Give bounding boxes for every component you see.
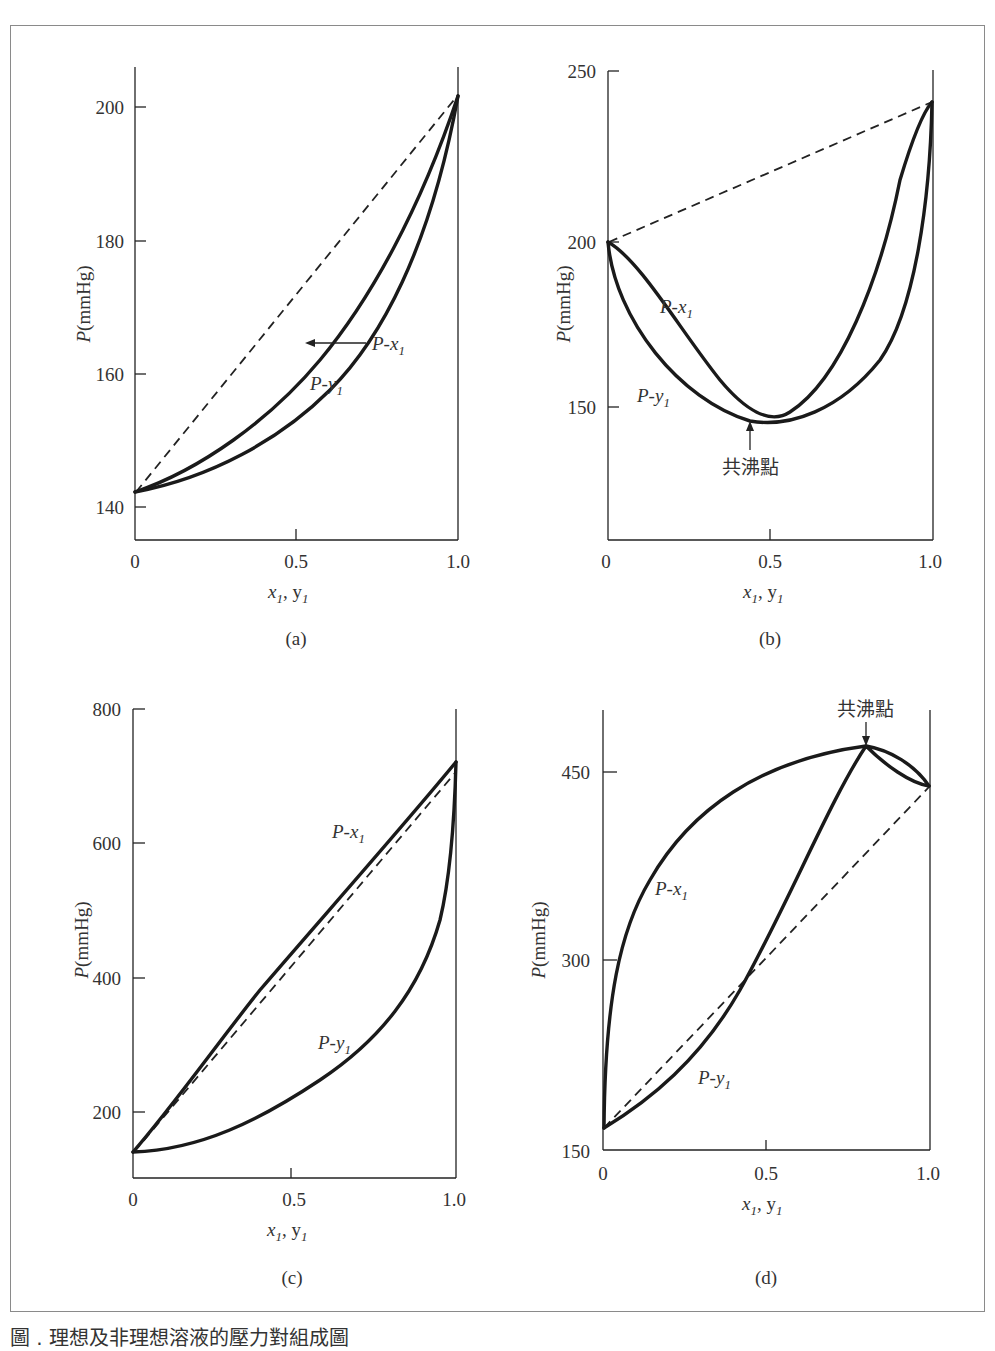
y-axis-label: P(mmHg) bbox=[553, 265, 575, 343]
x-tick: 1.0 bbox=[442, 1189, 466, 1210]
py-curve bbox=[608, 102, 932, 422]
x-axis-label: x1, y1 bbox=[742, 581, 783, 606]
px-label: P-x1 bbox=[331, 821, 365, 846]
x-tick: 0.5 bbox=[284, 551, 308, 572]
panel-c: 800 600 400 200 0 0.5 1.0 x1, y1 P(mmHg)… bbox=[71, 699, 466, 1289]
x-axis-label: x1, y1 bbox=[741, 1193, 782, 1218]
y-tick: 200 bbox=[568, 232, 597, 253]
x-axis-label: x1, y1 bbox=[267, 581, 308, 606]
y-axis-label: P(mmHg) bbox=[528, 901, 550, 979]
py-label: P-y1 bbox=[697, 1067, 731, 1092]
x-tick: 1.0 bbox=[916, 1163, 940, 1184]
panel-label: (d) bbox=[755, 1267, 777, 1289]
x-tick: 1.0 bbox=[918, 551, 942, 572]
px-curve bbox=[608, 102, 932, 417]
y-tick: 200 bbox=[96, 97, 125, 118]
azeotrope-label: 共沸點 bbox=[722, 456, 779, 478]
x-tick: 0.5 bbox=[282, 1189, 306, 1210]
raoult-line bbox=[609, 102, 932, 242]
raoult-line bbox=[604, 787, 929, 1128]
y-tick: 180 bbox=[96, 231, 125, 252]
x-axis-label: x1, y1 bbox=[266, 1219, 307, 1244]
y-tick: 300 bbox=[562, 950, 591, 971]
y-axis-label: P(mmHg) bbox=[71, 901, 93, 979]
panel-a: 200 180 160 140 0 0.5 1.0 x1, y1 P(mmHg)… bbox=[73, 67, 470, 650]
y-axis-label: P(mmHg) bbox=[73, 265, 95, 343]
x-tick: 1.0 bbox=[446, 551, 470, 572]
y-tick: 250 bbox=[568, 61, 597, 82]
raoult-line bbox=[136, 95, 458, 492]
y-tick: 160 bbox=[96, 364, 125, 385]
azeotrope-label: 共沸點 bbox=[837, 698, 894, 720]
py-label: P-y1 bbox=[317, 1032, 351, 1057]
panel-b: 250 200 150 0 0.5 1.0 x1, y1 P(mmHg) (b)… bbox=[553, 61, 942, 650]
x-tick: 0.5 bbox=[758, 551, 782, 572]
y-tick: 800 bbox=[93, 699, 122, 720]
px-label: P-x1 bbox=[654, 878, 688, 903]
y-tick: 450 bbox=[562, 762, 591, 783]
y-tick: 140 bbox=[96, 497, 125, 518]
panel-d: 450 300 150 0 0.5 1.0 x1, y1 P(mmHg) (d)… bbox=[528, 698, 940, 1289]
px-label: P-x1 bbox=[371, 333, 405, 358]
panel-label: (c) bbox=[281, 1267, 302, 1289]
panel-label: (a) bbox=[285, 628, 306, 650]
arrow-icon bbox=[305, 339, 315, 347]
py-label: P-y1 bbox=[636, 385, 670, 410]
x-tick: 0 bbox=[598, 1163, 608, 1184]
y-tick: 200 bbox=[93, 1102, 122, 1123]
px-curve bbox=[133, 762, 456, 1152]
x-tick: 0 bbox=[130, 551, 140, 572]
y-tick: 150 bbox=[568, 397, 597, 418]
arrow-icon bbox=[862, 736, 870, 746]
figure-caption: 圖 . 理想及非理想溶液的壓力對組成圖 bbox=[10, 1322, 349, 1351]
x-tick: 0.5 bbox=[754, 1163, 778, 1184]
x-tick: 0 bbox=[128, 1189, 138, 1210]
py-curve bbox=[604, 746, 929, 1128]
y-tick: 150 bbox=[562, 1141, 591, 1162]
panel-label: (b) bbox=[759, 628, 781, 650]
y-tick: 400 bbox=[93, 968, 122, 989]
y-tick: 600 bbox=[93, 833, 122, 854]
x-tick: 0 bbox=[601, 551, 611, 572]
